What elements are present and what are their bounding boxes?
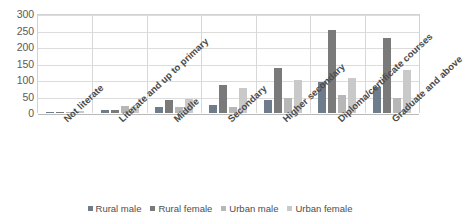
y-tick-label: 250 xyxy=(17,25,34,36)
legend-swatch-icon xyxy=(88,206,93,211)
legend-swatch-icon xyxy=(287,206,292,211)
legend-swatch-icon xyxy=(221,206,226,211)
chart-legend: Rural maleRural femaleUrban maleUrban fe… xyxy=(0,203,440,214)
legend-label: Rural female xyxy=(158,203,212,214)
y-tick-label: 200 xyxy=(17,42,34,53)
bar[interactable] xyxy=(165,100,173,113)
legend-item[interactable]: Rural male xyxy=(88,203,142,214)
y-tick-label: 150 xyxy=(17,58,34,69)
y-tick-label: 50 xyxy=(23,91,34,102)
bar[interactable] xyxy=(264,100,272,113)
legend-item[interactable]: Rural female xyxy=(150,203,212,214)
legend-item[interactable]: Urban female xyxy=(287,203,352,214)
legend-label: Urban male xyxy=(229,203,278,214)
y-tick-label: 100 xyxy=(17,75,34,86)
bar[interactable] xyxy=(219,85,227,113)
bar[interactable] xyxy=(209,105,217,113)
legend-label: Urban female xyxy=(295,203,352,214)
legend-label: Rural male xyxy=(96,203,142,214)
legend-item[interactable]: Urban male xyxy=(221,203,278,214)
legend-swatch-icon xyxy=(150,206,155,211)
y-tick-label: 300 xyxy=(17,9,34,20)
x-axis-category-labels: Not literateLiterate and up to primaryMi… xyxy=(0,113,440,205)
bar[interactable] xyxy=(274,68,282,113)
y-axis: 300250200150100500 xyxy=(4,14,34,113)
